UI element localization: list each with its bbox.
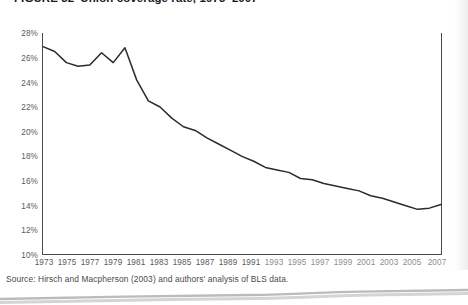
y-axis-tick-label: 22%	[8, 104, 38, 112]
y-axis-tick-label: 26%	[8, 55, 38, 63]
x-axis-tick-label: 1983	[150, 258, 169, 267]
x-axis-tick-label: 1987	[196, 258, 215, 267]
x-axis-tick-label: 1997	[311, 258, 330, 267]
figure-page: FIGURE 32Union coverage rate, 1973–2007 …	[0, 0, 468, 305]
x-axis-tick-label: 1981	[127, 258, 146, 267]
y-axis-tick-label: 10%	[8, 252, 38, 260]
series-line-union-coverage	[42, 33, 442, 255]
x-axis-tick-label: 2007	[428, 258, 447, 267]
y-axis-tick-label: 24%	[8, 80, 38, 88]
x-axis-tick-label: 1977	[81, 258, 100, 267]
y-axis-tick-label: 20%	[8, 129, 38, 137]
y-axis-tick-label: 12%	[8, 227, 38, 235]
x-axis-tick-label: 1979	[104, 258, 123, 267]
x-axis-tick-label: 1985	[173, 258, 192, 267]
x-axis-tick-label: 1995	[288, 258, 307, 267]
x-axis-tick-label: 1973	[35, 258, 54, 267]
x-axis-tick-label: 1993	[265, 258, 284, 267]
y-axis-tick-label: 28%	[8, 30, 38, 38]
x-axis-tick-label: 1975	[58, 258, 77, 267]
y-axis-tick-label: 18%	[8, 153, 38, 161]
y-axis-tick-label: 14%	[8, 203, 38, 211]
x-axis-tick-label: 2003	[380, 258, 399, 267]
line-chart: 10% 12% 14% 16% 18% 20% 22% 24% 26% 28% …	[0, 0, 468, 270]
x-axis-tick-label: 1999	[334, 258, 353, 267]
source-note: Source: Hirsch and Macpherson (2003) and…	[6, 274, 288, 284]
y-axis-tick-label: 16%	[8, 178, 38, 186]
x-axis-tick-label: 2001	[357, 258, 376, 267]
x-axis-tick-label: 1989	[219, 258, 238, 267]
x-axis-tick-label: 1991	[242, 258, 261, 267]
scan-page-edge	[0, 288, 468, 305]
x-axis-tick-label: 2005	[403, 258, 422, 267]
